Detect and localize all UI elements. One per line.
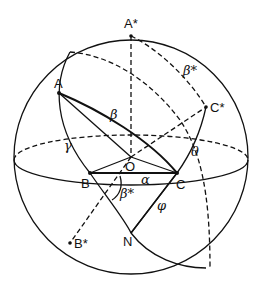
label-o: O [125, 159, 135, 174]
point-c [175, 171, 179, 175]
arc-a-c [59, 93, 177, 173]
label-b: B [81, 176, 90, 191]
label-a-star: A* [124, 16, 138, 31]
point-a [57, 91, 61, 95]
label-c-star: C* [210, 100, 224, 115]
line-c-n [131, 173, 177, 233]
label-beta-star-top: β* [182, 63, 198, 78]
point-a-star [129, 34, 133, 38]
label-c: C [176, 177, 185, 192]
label-b-star: B* [74, 236, 88, 251]
label-phi: φ [157, 198, 167, 213]
label-alpha: α [141, 172, 150, 187]
label-theta: θ [191, 144, 199, 159]
label-beta: β [109, 107, 118, 122]
label-gamma: γ [64, 138, 72, 153]
label-n: N [123, 234, 132, 249]
point-b [88, 171, 92, 175]
label-a: A [54, 76, 63, 91]
label-beta-star: β* [119, 186, 135, 201]
point-c-star [204, 105, 208, 109]
point-b-star [68, 241, 72, 245]
spherical-triangle-diagram: A* A C* O B C N B* β β* γ θ α β* φ [0, 0, 260, 289]
